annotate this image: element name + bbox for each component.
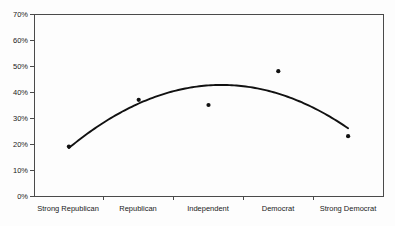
data-point (206, 103, 210, 107)
scatter-plot-with-fit-curve: 70% 60% 50% 40% 30% 20% 10% 0% Strong Re… (0, 0, 395, 226)
y-tick-label-70: 70% (13, 10, 28, 19)
data-point (137, 98, 141, 102)
y-tick-label-30: 30% (13, 114, 28, 123)
x-tick-label-republican: Republican (119, 204, 157, 213)
x-tick-label-strong-democrat: Strong Democrat (320, 204, 378, 213)
y-tick-label-0: 0% (17, 192, 28, 201)
chart-container: 70% 60% 50% 40% 30% 20% 10% 0% Strong Re… (0, 0, 395, 226)
x-tick-label-independent: Independent (187, 204, 230, 213)
x-axis-ticks (103, 196, 313, 200)
fitted-curve (69, 85, 348, 148)
data-point (67, 145, 71, 149)
x-tick-label-democrat: Democrat (262, 204, 295, 213)
data-point-group (67, 69, 350, 149)
data-point (346, 134, 350, 138)
y-tick-label-40: 40% (13, 88, 28, 97)
y-tick-label-10: 10% (13, 166, 28, 175)
y-axis-ticks (30, 14, 34, 196)
y-tick-label-50: 50% (13, 62, 28, 71)
y-tick-label-60: 60% (13, 36, 28, 45)
x-tick-label-strong-republican: Strong Republican (37, 204, 99, 213)
y-tick-label-20: 20% (13, 140, 28, 149)
data-point (276, 69, 280, 73)
